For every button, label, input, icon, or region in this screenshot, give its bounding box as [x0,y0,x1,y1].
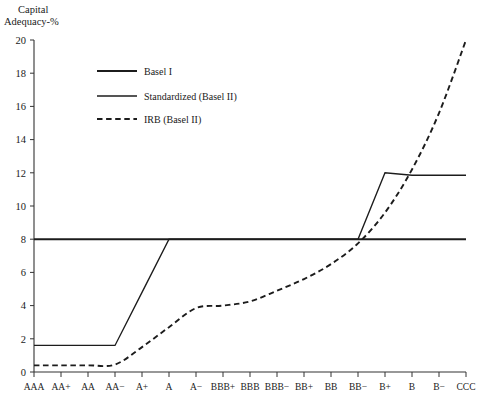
chart-legend: Basel I Standardized (Basel II) IRB (Bas… [97,66,237,126]
y-tick-label: 12 [16,168,27,179]
x-tick-marks [34,372,466,377]
y-tick-label: 18 [16,68,27,79]
data-series-group [34,40,466,366]
x-tick-label: BB− [349,382,367,392]
y-tick-label: 4 [21,300,27,311]
chart-plot-area: 02468101214161820 AAAAA+AAAA−A+AA−BBB+BB… [0,0,483,404]
x-tick-label: B+ [379,382,391,392]
y-tick-marks [30,40,34,372]
x-tick-label: AAA [24,382,45,392]
y-tick-label: 8 [21,234,26,245]
chart-figure: Capital Adequacy-% 02468101214161820 AAA… [0,0,483,404]
x-tick-label: B [409,382,415,392]
y-tick-labels: 02468101214161820 [16,35,27,378]
x-tick-label: A− [190,382,202,392]
x-axis: AAAAA+AAAA−A+AA−BBB+BBBBBB−BB+BBBB−B+BB−… [24,372,476,392]
x-tick-label: A [166,382,173,392]
x-tick-label: BBB+ [211,382,235,392]
x-tick-label: AA [81,382,95,392]
x-tick-labels: AAAAA+AAAA−A+AA−BBB+BBBBBB−BB+BBBB−B+BB−… [24,382,476,392]
y-tick-label: 10 [16,201,27,212]
x-tick-label: BB [325,382,338,392]
x-tick-label: AA+ [51,382,70,392]
series-line-irb [34,40,466,366]
legend-label-irb: IRB (Basel II) [144,114,201,126]
y-tick-label: 16 [16,101,27,112]
x-tick-label: BBB [240,382,259,392]
x-tick-label: CCC [456,382,475,392]
x-tick-label: BB+ [295,382,313,392]
x-tick-label: A+ [136,382,148,392]
y-tick-label: 20 [16,35,27,46]
x-tick-label: BBB− [265,382,289,392]
y-tick-label: 2 [21,334,26,345]
y-tick-label: 6 [21,267,26,278]
y-axis: 02468101214161820 [16,35,35,378]
x-tick-label: B− [433,382,445,392]
series-line-standardized [34,173,466,346]
x-tick-label: AA− [105,382,124,392]
y-tick-label: 14 [16,134,27,145]
legend-label-standardized: Standardized (Basel II) [144,91,237,103]
y-tick-label: 0 [21,367,26,378]
legend-label-basel-i: Basel I [144,66,172,77]
